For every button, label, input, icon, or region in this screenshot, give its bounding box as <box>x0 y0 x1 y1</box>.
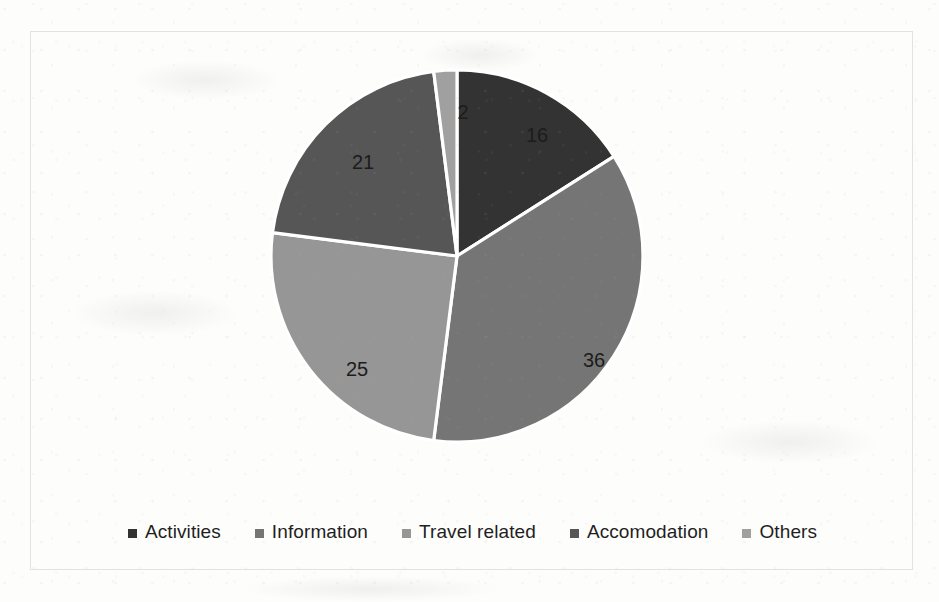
legend-swatch-icon <box>402 529 411 538</box>
legend-item-activities[interactable]: Activities <box>128 521 221 543</box>
legend-swatch-icon <box>570 529 579 538</box>
legend-item-travel-related[interactable]: Travel related <box>402 521 536 543</box>
pie-slices <box>271 70 643 442</box>
legend-item-label: Travel related <box>419 521 536 543</box>
legend-item-others[interactable]: Others <box>742 521 817 543</box>
pie-slice-travel-related[interactable] <box>271 233 457 441</box>
legend-item-accomodation[interactable]: Accomodation <box>570 521 709 543</box>
pie-chart-plot-area: 16 36 25 21 2 <box>31 32 914 487</box>
legend-swatch-icon <box>128 529 137 538</box>
legend-item-label: Information <box>272 521 368 543</box>
legend-item-information[interactable]: Information <box>255 521 368 543</box>
pie-label-others: 2 <box>457 101 468 123</box>
legend-swatch-icon <box>255 529 264 538</box>
chart-legend: Activities Information Travel related Ac… <box>31 521 914 543</box>
legend-item-label: Activities <box>145 521 221 543</box>
pie-label-accomodation: 21 <box>352 151 374 173</box>
legend-swatch-icon <box>742 529 751 538</box>
scan-smudge <box>240 576 500 602</box>
legend-item-label: Accomodation <box>587 521 709 543</box>
pie-chart: 16 36 25 21 2 <box>271 56 643 456</box>
pie-label-activities: 16 <box>526 124 548 146</box>
legend-item-label: Others <box>759 521 817 543</box>
pie-label-travel-related: 25 <box>346 358 368 380</box>
pie-label-information: 36 <box>583 349 605 371</box>
chart-frame: 16 36 25 21 2 Activities Information Tra… <box>30 31 913 570</box>
